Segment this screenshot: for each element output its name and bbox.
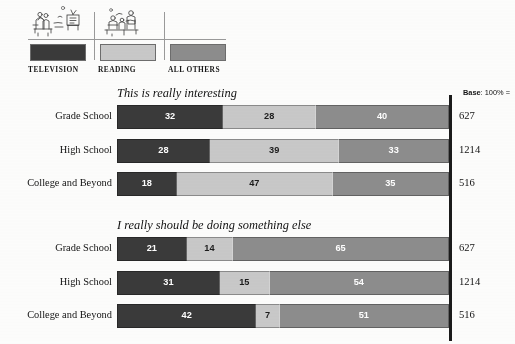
row-base-value: 516 <box>459 309 475 320</box>
row-label: Grade School <box>0 110 112 121</box>
base-header-rest: : 100% = <box>481 88 510 97</box>
segment-value: 65 <box>335 244 345 253</box>
row-base-value: 516 <box>459 177 475 188</box>
legend-item-television: TELEVISION <box>28 12 90 84</box>
row-base-value: 1214 <box>459 276 480 287</box>
bar-segment-all-others: 35 <box>333 172 449 196</box>
legend-divider-1 <box>94 12 95 60</box>
legend-item-reading: READING <box>98 12 160 84</box>
bar-segment-all-others: 51 <box>280 304 449 328</box>
chart-page: TELEVISION <box>0 0 515 344</box>
segment-value: 54 <box>354 278 364 287</box>
row-label: Grade School <box>0 242 112 253</box>
segment-value: 28 <box>158 146 168 155</box>
bar-segment-reading: 39 <box>210 139 339 163</box>
legend-label-television: TELEVISION <box>28 65 90 74</box>
legend-swatch-reading <box>100 44 156 61</box>
segment-value: 18 <box>142 179 152 188</box>
stacked-bar: 31 15 54 <box>117 271 449 295</box>
base-header-bold: Base <box>463 88 481 97</box>
row-label: High School <box>0 144 112 155</box>
bar-row: College and Beyond 18 47 35 516 <box>0 172 515 196</box>
bar-segment-reading: 28 <box>223 105 316 129</box>
bar-segment-television: 31 <box>117 271 220 295</box>
bar-row: High School 28 39 33 1214 <box>0 139 515 163</box>
row-label: College and Beyond <box>0 309 112 320</box>
segment-value: 15 <box>239 278 249 287</box>
segment-value: 35 <box>385 179 395 188</box>
legend-label-all-others: ALL OTHERS <box>168 65 230 74</box>
bar-row: Grade School 21 14 65 627 <box>0 237 515 261</box>
row-label: College and Beyond <box>0 177 112 188</box>
panel-title: I really should be doing something else <box>117 218 311 233</box>
segment-value: 7 <box>265 311 270 320</box>
bar-segment-television: 28 <box>117 139 210 163</box>
bar-segment-television: 42 <box>117 304 256 328</box>
bar-segment-reading: 7 <box>256 304 279 328</box>
family-reading-illustration <box>100 3 158 37</box>
bar-segment-television: 32 <box>117 105 223 129</box>
row-label: High School <box>0 276 112 287</box>
bar-segment-all-others: 40 <box>316 105 449 129</box>
stacked-bar: 42 7 51 <box>117 304 449 328</box>
bar-segment-reading: 47 <box>177 172 333 196</box>
segment-value: 31 <box>163 278 173 287</box>
segment-value: 47 <box>249 179 259 188</box>
segment-value: 42 <box>182 311 192 320</box>
legend-divider-2 <box>164 12 165 60</box>
bar-segment-reading: 14 <box>187 237 233 261</box>
segment-value: 28 <box>264 112 274 121</box>
bar-row: Grade School 32 28 40 627 <box>0 105 515 129</box>
segment-value: 14 <box>204 244 214 253</box>
bar-segment-all-others: 54 <box>270 271 449 295</box>
panel-title: This is really interesting <box>117 86 237 101</box>
stacked-bar: 18 47 35 <box>117 172 449 196</box>
family-watching-television-illustration <box>30 3 88 37</box>
bar-row: College and Beyond 42 7 51 516 <box>0 304 515 328</box>
segment-value: 21 <box>147 244 157 253</box>
segment-value: 33 <box>389 146 399 155</box>
bar-segment-all-others: 65 <box>233 237 449 261</box>
bar-segment-television: 18 <box>117 172 177 196</box>
legend-swatch-all-others <box>170 44 226 61</box>
segment-value: 51 <box>359 311 369 320</box>
bar-segment-television: 21 <box>117 237 187 261</box>
row-base-value: 1214 <box>459 144 480 155</box>
stacked-bar: 21 14 65 <box>117 237 449 261</box>
bar-segment-all-others: 33 <box>339 139 449 163</box>
bar-row: High School 31 15 54 1214 <box>0 271 515 295</box>
segment-value: 32 <box>165 112 175 121</box>
segment-value: 40 <box>377 112 387 121</box>
base-header: Base: 100% = <box>463 88 510 97</box>
bar-segment-reading: 15 <box>220 271 270 295</box>
stacked-bar: 32 28 40 <box>117 105 449 129</box>
legend-swatch-television <box>30 44 86 61</box>
stacked-bar: 28 39 33 <box>117 139 449 163</box>
segment-value: 39 <box>269 146 279 155</box>
legend-label-reading: READING <box>98 65 160 74</box>
row-base-value: 627 <box>459 110 475 121</box>
row-base-value: 627 <box>459 242 475 253</box>
chart-legend: TELEVISION <box>28 12 228 84</box>
legend-item-all-others: ALL OTHERS <box>168 12 230 84</box>
